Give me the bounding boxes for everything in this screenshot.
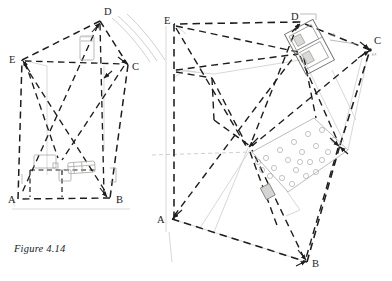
left-vertex-labels: A B C D E — [8, 6, 139, 205]
right-label-C: C — [374, 35, 381, 46]
left-label-D: D — [104, 6, 112, 17]
left-vertex-arrows — [23, 23, 127, 197]
left-label-C: C — [132, 61, 139, 72]
left-site-plan: A B C D E — [8, 6, 165, 209]
vegetation-stipple — [255, 127, 336, 186]
right-node-marks — [368, 48, 372, 52]
right-label-B: B — [312, 258, 319, 269]
left-contour-lines — [112, 14, 165, 62]
left-triangulation — [21, 24, 124, 195]
right-datum-line — [152, 152, 252, 155]
figure-drawing-surface: A B C D E — [0, 0, 392, 281]
left-label-E: E — [9, 54, 15, 65]
right-micro-annotations: E.P. 8.40 — [330, 33, 377, 57]
right-vertex-labels: A B C D E — [157, 11, 381, 269]
right-triangulation — [174, 24, 366, 258]
left-outline — [18, 21, 128, 199]
figure-container: A B C D E — [0, 0, 392, 281]
right-building-block — [285, 19, 335, 75]
left-furniture — [22, 36, 116, 184]
right-label-A: A — [157, 214, 165, 225]
figure-caption: Figure 4.14 — [14, 243, 65, 254]
right-building-leader — [300, 14, 356, 44]
micro-annotation-c: E.P. — [372, 53, 377, 57]
left-label-A: A — [8, 194, 16, 205]
right-site-plan: E.P. 8.40 A B C D E — [152, 11, 381, 269]
right-label-D: D — [291, 11, 299, 22]
right-vertex-arrows — [173, 24, 369, 266]
right-label-E: E — [164, 15, 170, 26]
left-label-B: B — [116, 194, 123, 205]
micro-annotation-d: 8.40 — [330, 33, 336, 37]
left-interior-walls — [30, 170, 96, 197]
